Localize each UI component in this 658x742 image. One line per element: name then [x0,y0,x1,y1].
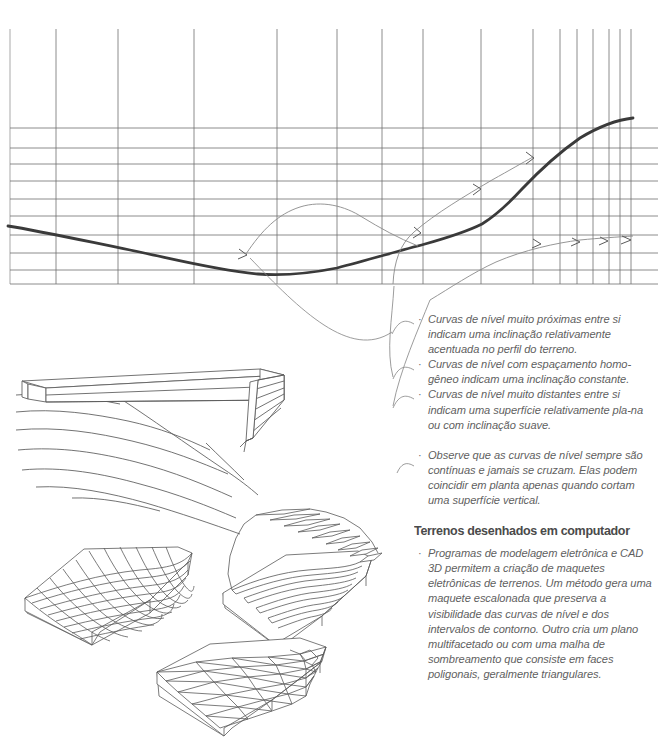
note-item: · Curvas de nível muito distantes entre … [428,387,658,432]
leader-steep [392,321,414,334]
note-text: Curvas de nível muito próximas entre si … [428,313,621,355]
note-item: · Programas de modelagem eletrônica e CA… [428,546,658,682]
annotation-text-column: · Curvas de nível muito próximas entre s… [414,312,658,682]
spacer [414,508,658,523]
note-block-computer-terrains: Terrenos desenhados em computador · Prog… [414,523,658,682]
leader-steep-long [250,258,392,340]
page-root: · Curvas de nível muito próximas entre s… [0,0,658,742]
note-text: Observe que as curvas de nível sempre sã… [428,449,643,506]
chart-arrowheads [238,152,631,259]
note-text: Curvas de nível muito distantes entre si… [428,388,643,430]
contour-spacing-curve-lower [430,236,633,300]
section-heading: Terrenos desenhados em computador [414,523,638,539]
note-item: · Curvas de nível com espaçamento homo-g… [428,357,658,387]
chart-horizontal-gridlines [10,128,658,284]
leader-flat [393,396,414,408]
contour-spacing-curve-upper [246,204,418,254]
bullet-icon: · [418,387,422,402]
bullet-icon: · [418,312,422,327]
note-block-contour-spacing: · Curvas de nível muito próximas entre s… [414,312,658,433]
terrain-profile-line [8,118,633,275]
bullet-icon: · [418,448,422,463]
leader-uniform-long [390,286,394,377]
note-item: · Observe que as curvas de nível sempre … [428,448,658,508]
bullet-icon: · [418,546,422,561]
chart-vertical-gridlines [10,29,631,284]
contour-spacing-curve-rising [393,157,533,284]
note-text: Curvas de nível com espaçamento homo-gên… [428,358,631,385]
leader-continuity [397,464,414,473]
spacer [414,433,658,448]
note-item: · Curvas de nível muito próximas entre s… [428,312,658,357]
note-block-continuity: · Observe que as curvas de nível sempre … [414,448,658,508]
note-text: Programas de modelagem eletrônica e CAD … [428,547,652,680]
bullet-icon: · [418,357,422,372]
chart-leader-lines [250,258,430,473]
leader-uniform [393,367,414,379]
